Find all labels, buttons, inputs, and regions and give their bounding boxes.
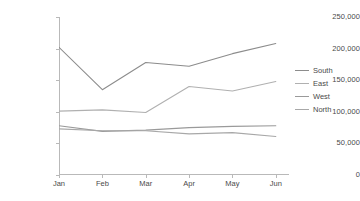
x-axis-tick: [276, 175, 277, 178]
x-axis-tick-label: Jun: [256, 179, 296, 188]
x-axis-tick: [146, 175, 147, 178]
legend-swatch-icon: [295, 96, 309, 97]
y-axis-tick-label: 200,000: [306, 45, 360, 53]
legend-item-east[interactable]: East: [295, 77, 357, 90]
plot-area: [59, 17, 281, 175]
x-axis-tick: [59, 175, 60, 178]
legend-item-label: North: [313, 105, 331, 114]
legend-item-label: East: [313, 79, 328, 88]
legend-item-west[interactable]: West: [295, 90, 357, 103]
legend-item-label: West: [313, 92, 330, 101]
x-axis-tick: [232, 175, 233, 178]
series-line-south: [59, 44, 276, 90]
x-axis-tick-label: Mar: [126, 179, 166, 188]
x-axis-tick: [102, 175, 103, 178]
legend-item-north[interactable]: North: [295, 103, 357, 116]
x-axis-tick: [189, 175, 190, 178]
series-line-north: [59, 129, 276, 137]
legend-item-south[interactable]: South: [295, 64, 357, 77]
series-lines: [59, 17, 281, 175]
legend-swatch-icon: [295, 83, 309, 84]
x-axis-tick-label: Jan: [39, 179, 79, 188]
line-chart: 050,000100,000150,000200,000250,000 JanF…: [0, 0, 360, 201]
chart-legend: SouthEastWestNorth: [295, 64, 357, 116]
legend-swatch-icon: [295, 70, 309, 71]
legend-item-label: South: [313, 66, 333, 75]
y-axis-tick-label: 50,000: [306, 139, 360, 147]
x-axis-tick-label: May: [212, 179, 252, 188]
x-axis-tick-label: Apr: [169, 179, 209, 188]
legend-swatch-icon: [295, 109, 309, 110]
y-axis-tick-label: 0: [306, 171, 360, 179]
series-line-east: [59, 81, 276, 112]
x-axis-tick-label: Feb: [82, 179, 122, 188]
y-axis-tick-label: 250,000: [306, 13, 360, 21]
